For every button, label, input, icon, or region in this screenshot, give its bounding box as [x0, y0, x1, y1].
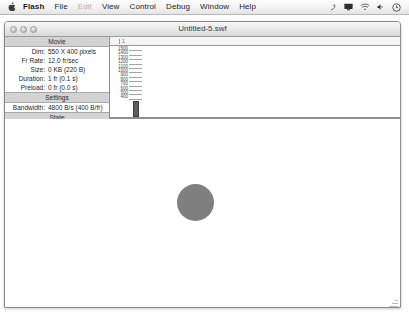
info-label-preload: Preload:: [5, 83, 48, 92]
circle-shape: [177, 184, 214, 221]
graph-gridlines: [129, 47, 142, 100]
profiler-graph[interactable]: 1 15001400130012001100100090080070060050…: [110, 37, 400, 118]
menu-item-debug[interactable]: Debug: [161, 2, 195, 12]
graph-y-tick-label: 400: [112, 95, 128, 99]
flash-player-window: Untitled-5.swf Movie Dim: 550 X 400 pixe…: [4, 21, 401, 308]
screen: Flash File Edit View Control Debug Windo…: [0, 0, 409, 312]
menu-bar-items: Flash File Edit View Control Debug Windo…: [0, 1, 329, 13]
info-value-bandwidth: 4800 B/s (400 B/fr): [48, 103, 106, 112]
info-row-size: Size: 0 KB (220 B): [5, 65, 109, 74]
info-value-size: 0 KB (220 B): [48, 65, 106, 74]
menu-item-window[interactable]: Window: [195, 2, 234, 12]
bluetooth-icon[interactable]: [329, 2, 337, 13]
menu-bar-status-items: [329, 2, 409, 13]
info-row-preload: Preload: 0 fr (0.0 s): [5, 83, 109, 92]
window-controls: [5, 26, 37, 33]
bandwidth-profiler: Movie Dim: 550 X 400 pixels Fr Rate: 12.…: [5, 37, 400, 119]
info-value-duration: 1 fr (0.1 s): [48, 74, 106, 83]
airport-wifi-icon[interactable]: [360, 2, 370, 13]
close-button[interactable]: [10, 26, 17, 33]
graph-y-axis-labels: 1500140013001200110010009008007006005004…: [112, 47, 128, 100]
ruler-frame-number: 1: [122, 37, 125, 45]
resize-grip[interactable]: [388, 297, 399, 308]
menu-item-view[interactable]: View: [97, 2, 125, 12]
info-value-dim: 550 X 400 pixels: [48, 47, 106, 56]
info-label-size: Size:: [5, 65, 48, 74]
info-label-fr-rate: Fr Rate:: [5, 56, 48, 65]
minimize-button[interactable]: [20, 26, 27, 33]
graph-frame-bar[interactable]: [133, 101, 139, 117]
system-menu-bar: Flash File Edit View Control Debug Windo…: [0, 0, 409, 15]
zoom-button[interactable]: [30, 26, 37, 33]
menu-item-help[interactable]: Help: [234, 2, 261, 12]
volume-icon[interactable]: [377, 2, 385, 13]
menu-item-control[interactable]: Control: [125, 2, 162, 12]
graph-gridline: [129, 95, 142, 99]
graph-baseline: [110, 117, 400, 118]
menu-item-file[interactable]: File: [49, 2, 72, 12]
window-title-bar[interactable]: Untitled-5.swf: [5, 22, 400, 37]
window-title: Untitled-5.swf: [5, 22, 400, 36]
apple-logo-icon[interactable]: [6, 1, 17, 13]
section-header-settings: Settings: [5, 92, 109, 103]
display-icon[interactable]: [344, 2, 353, 13]
info-value-preload: 0 fr (0.0 s): [48, 83, 106, 92]
info-row-dim: Dim: 550 X 400 pixels: [5, 47, 109, 56]
info-row-duration: Duration: 1 fr (0.1 s): [5, 74, 109, 83]
info-row-fr-rate: Fr Rate: 12.0 fr/sec: [5, 56, 109, 65]
graph-plot-area: 1500140013001200110010009008007006005004…: [110, 46, 400, 118]
info-label-duration: Duration:: [5, 74, 48, 83]
clock-icon[interactable]: [392, 2, 401, 13]
info-label-bandwidth: Bandwidth:: [5, 103, 48, 112]
menu-item-edit: Edit: [73, 2, 97, 12]
section-header-movie: Movie: [5, 37, 109, 47]
info-row-bandwidth: Bandwidth: 4800 B/s (400 B/fr): [5, 103, 109, 112]
info-label-dim: Dim:: [5, 47, 48, 56]
menu-item-flash[interactable]: Flash: [21, 2, 49, 12]
profiler-info-panel: Movie Dim: 550 X 400 pixels Fr Rate: 12.…: [5, 37, 110, 118]
info-value-fr-rate: 12.0 fr/sec: [48, 56, 106, 65]
timeline-ruler[interactable]: 1: [110, 37, 400, 46]
movie-stage[interactable]: [5, 119, 400, 308]
